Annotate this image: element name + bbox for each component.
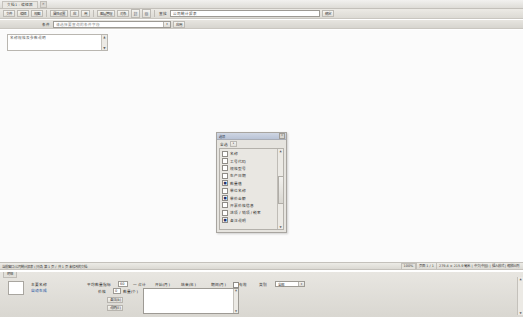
checkbox[interactable] bbox=[222, 210, 228, 216]
price-label: 价格 bbox=[98, 289, 106, 294]
scroll-up-icon[interactable]: ▲ bbox=[279, 149, 281, 153]
active-label: 有效 bbox=[239, 282, 247, 287]
checkbox[interactable] bbox=[222, 202, 228, 208]
checkbox[interactable]: ■ bbox=[222, 195, 228, 201]
primary-toolbar: 文件 编辑 视图 属性设置 应 用 图层管理 对象 ⛓ ▨ 查找 公司统计报表 … bbox=[0, 9, 523, 19]
scroll-down-icon[interactable]: ▼ bbox=[235, 310, 237, 313]
object-button[interactable]: 对象 bbox=[117, 10, 129, 17]
toolbar-separator bbox=[46, 10, 47, 17]
qty-label: 平均数量指标 bbox=[87, 282, 111, 287]
image-icon[interactable]: ▨ bbox=[142, 9, 151, 18]
chevron-down-icon[interactable]: ▾ bbox=[163, 22, 170, 27]
checkbox[interactable] bbox=[222, 151, 228, 157]
list-item[interactable]: ■ 备注说明 bbox=[221, 217, 277, 224]
checkbox[interactable]: ■ bbox=[222, 217, 228, 223]
note-button[interactable]: 说明(E) bbox=[107, 305, 123, 311]
close-icon[interactable]: ✕ bbox=[40, 1, 47, 8]
unit-label: 数量(个) bbox=[123, 289, 138, 294]
scroll-up-icon[interactable]: ▲ bbox=[519, 277, 521, 281]
window-tab[interactable]: 文档1 - 编辑器 bbox=[2, 1, 38, 8]
scroll-down-icon[interactable]: ▼ bbox=[519, 311, 521, 315]
preview-thumbnail[interactable] bbox=[8, 281, 24, 295]
notes-textarea[interactable]: ▲ ▼ bbox=[143, 288, 239, 314]
list-item[interactable]: ■ 单价金额 bbox=[221, 194, 277, 201]
dialog-body: 名称 工号代码 规格型号 生产日期 ■ bbox=[219, 148, 284, 230]
category-label: 类别 bbox=[259, 282, 267, 287]
category-select-value: 全部 bbox=[276, 282, 298, 287]
checkbox[interactable] bbox=[222, 158, 228, 164]
name-value[interactable]: 自动生成 bbox=[31, 288, 47, 293]
properties-button[interactable]: 属性设置 bbox=[50, 10, 68, 17]
list-item[interactable]: 单位名称 bbox=[221, 187, 277, 194]
link-icon[interactable]: ⛓ bbox=[131, 9, 140, 18]
chevron-down-icon[interactable]: ▾ bbox=[230, 141, 237, 147]
list-item[interactable]: 名称 bbox=[221, 150, 277, 157]
toolbar-filler bbox=[336, 9, 520, 18]
secondary-toolbar: 条件 请选择要查询的条件字段 ▾ 应用 bbox=[0, 20, 523, 29]
toolbar-separator bbox=[93, 10, 94, 17]
status-left-text: 当前窗口:公司统计报表 (只读) 第 1 页 / 共 1 页 未修改的文档 bbox=[2, 264, 87, 269]
list-item-label: 开票价格信息 bbox=[230, 203, 254, 208]
checkbox[interactable] bbox=[222, 188, 228, 194]
dialog-title-bar: 选项 ✕ bbox=[217, 133, 286, 140]
zoom-level[interactable]: 100% bbox=[401, 263, 417, 270]
condition-label: 条件 bbox=[41, 22, 51, 27]
note-scrollbar[interactable]: ▲ ▼ bbox=[101, 35, 107, 50]
start-label: 开始(月) bbox=[155, 282, 170, 287]
category-select[interactable]: 全部 ▾ bbox=[275, 281, 305, 287]
select-all-label: 全选 bbox=[220, 142, 228, 147]
notes-scrollbar[interactable]: ▲ ▼ bbox=[233, 289, 238, 313]
checkbox[interactable] bbox=[222, 165, 228, 171]
list-item-label: 备注说明 bbox=[230, 218, 246, 223]
scrollbar-thumb[interactable] bbox=[278, 176, 284, 204]
checkbox[interactable]: ■ bbox=[222, 180, 228, 186]
list-item-label: 数量值 bbox=[230, 181, 242, 186]
list-item-label: 规格型号 bbox=[230, 166, 246, 171]
edit-menu-button[interactable]: 编辑 bbox=[17, 10, 29, 17]
scroll-up-icon[interactable]: ▲ bbox=[103, 35, 105, 39]
list-item-label: 工号代码 bbox=[230, 159, 246, 164]
name-label: 主要名称 bbox=[31, 282, 47, 287]
layer-manager-button[interactable]: 图层管理 bbox=[97, 10, 115, 17]
period-label: 期间(月) bbox=[211, 282, 226, 287]
list-item[interactable]: 工号代码 bbox=[221, 157, 277, 164]
dialog-title: 选项 bbox=[218, 134, 225, 139]
view-menu-button[interactable]: 视图 bbox=[31, 10, 43, 17]
note-textbox-value: 名称规格及参数说明 bbox=[8, 35, 101, 50]
list-item-label: 进项 / 销项 / 税率 bbox=[230, 210, 261, 215]
scroll-up-icon[interactable]: ▲ bbox=[235, 289, 237, 292]
notes-textarea-value bbox=[144, 289, 233, 313]
list-item[interactable]: 规格型号 bbox=[221, 165, 277, 172]
condition-apply-button[interactable]: 应用 bbox=[173, 21, 185, 28]
file-menu-button[interactable]: 文件 bbox=[3, 10, 15, 17]
list-item[interactable]: 进项 / 销项 / 税率 bbox=[221, 209, 277, 216]
chevron-down-icon[interactable]: ▾ bbox=[298, 282, 304, 286]
search-input[interactable]: 公司统计报表 bbox=[170, 10, 320, 17]
store-button[interactable]: 备注(B) bbox=[107, 297, 123, 303]
reset-button[interactable]: 用 bbox=[81, 10, 90, 17]
price-input[interactable]: 0 bbox=[113, 288, 121, 294]
scroll-down-icon[interactable]: ▼ bbox=[103, 46, 105, 50]
checkbox[interactable] bbox=[222, 173, 228, 179]
application-window: 文档1 - 编辑器 ✕ 文件 编辑 视图 属性设置 应 用 图层管理 对象 ⛓ … bbox=[0, 0, 523, 317]
total-label: 一 合计 bbox=[133, 282, 146, 287]
list-item-label: 生产日期 bbox=[230, 173, 246, 178]
search-go-button[interactable]: 确定 bbox=[322, 10, 334, 17]
title-bar-filler bbox=[47, 0, 523, 8]
toolbar-separator bbox=[154, 10, 155, 17]
list-item-label: 名称 bbox=[230, 151, 238, 156]
options-dialog[interactable]: 选项 ✕ 全选 ▾ 名称 工号代码 bbox=[216, 132, 287, 233]
search-label: 查找 bbox=[158, 11, 168, 16]
dialog-close-icon[interactable]: ✕ bbox=[279, 133, 285, 139]
list-item[interactable]: 开票价格信息 bbox=[221, 202, 277, 209]
scroll-down-icon[interactable]: ▼ bbox=[279, 225, 281, 229]
dialog-list-scrollbar[interactable]: ▲ ▼ bbox=[277, 149, 283, 229]
condition-select[interactable]: 请选择要查询的条件字段 ▾ bbox=[53, 21, 171, 28]
qty-input[interactable]: 60 bbox=[118, 281, 128, 287]
document-canvas[interactable]: 名称规格及参数说明 ▲ ▼ 选项 ✕ 全选 ▾ 名称 bbox=[0, 30, 523, 263]
list-item[interactable]: 生产日期 bbox=[221, 172, 277, 179]
apply-button[interactable]: 应 bbox=[70, 10, 79, 17]
detail-panel-scrollbar[interactable]: ▲ ▼ bbox=[517, 277, 523, 315]
note-textbox[interactable]: 名称规格及参数说明 ▲ ▼ bbox=[7, 34, 108, 51]
list-item[interactable]: ■ 数量值 bbox=[221, 180, 277, 187]
